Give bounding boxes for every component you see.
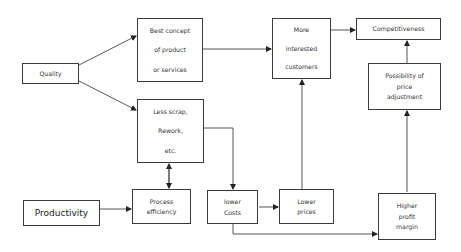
node-process-efficiency-line-1: Process [150,198,173,205]
node-productivity: Productivity [23,200,100,226]
node-more-interested-line-1: More [294,26,309,33]
node-higher-profit-line-1: Higher [397,202,418,209]
node-best-concept: Best concept of product or services [137,18,203,82]
node-higher-profit-line-2: profit [399,213,415,220]
node-price-adjustment-line-2: price [397,83,412,90]
node-competitiveness: Competitiveness [356,18,441,40]
node-more-interested-customers: More interested customers [272,18,331,79]
node-best-concept-line-1: Best concept [150,27,190,34]
edge-quality-best-concept [79,36,136,65]
node-competitiveness-label: Competitiveness [373,25,425,32]
node-price-adjustment-line-1: Possibility of [385,72,424,79]
edge-quality-less-scrap [79,81,136,110]
node-lower-prices-line-1: Lower [297,198,316,205]
node-lower-costs-line-1: lower [224,198,241,205]
node-less-scrap-line-2: Rework, [158,127,183,134]
node-process-efficiency-line-2: efficiency [147,208,177,215]
node-lower-prices-line-2: prices [297,208,316,215]
node-best-concept-line-3: or services [153,66,187,73]
node-quality: Quality [22,63,79,84]
node-lower-prices: Lower prices [279,189,334,224]
node-process-efficiency: Process efficiency [132,189,191,224]
node-more-interested-line-3: customers [285,63,317,70]
node-less-scrap: Less scrap, Rework, etc. [137,99,204,163]
node-higher-profit-line-3: margin [396,223,418,230]
node-higher-profit-margin: Higher profit margin [378,193,436,240]
node-less-scrap-line-1: Less scrap, [153,108,187,115]
node-less-scrap-line-3: etc. [165,147,177,154]
edge-less-scrap-lower-costs [204,128,233,189]
node-best-concept-line-2: of product [154,46,186,53]
edge-lower-costs-higher-profit [233,224,377,234]
node-lower-costs: lower Costs [207,190,258,224]
flowchart-diagram: Quality Best concept of product or servi… [0,0,461,252]
node-price-adjustment-line-3: adjustment [387,93,422,100]
node-lower-costs-line-2: Costs [224,209,241,216]
node-productivity-label: Productivity [35,208,88,219]
node-price-adjustment: Possibility of price adjustment [368,63,441,110]
node-quality-label: Quality [39,70,61,77]
node-more-interested-line-2: interested [286,45,317,52]
